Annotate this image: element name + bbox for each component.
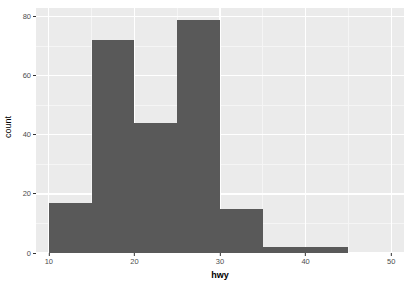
y-axis-tick-label: 60	[23, 71, 33, 80]
x-axis-tick-mark	[48, 253, 49, 256]
y-axis-tick-label: 40	[23, 130, 33, 139]
y-axis-tick-label: 80	[23, 12, 33, 21]
x-axis-tick: 30	[216, 253, 224, 266]
x-axis-tick-mark	[134, 253, 135, 256]
x-axis-tick-label: 30	[216, 257, 224, 266]
histogram-bar	[177, 20, 220, 253]
y-axis-ticks: 020406080	[14, 0, 36, 290]
histogram-bar	[134, 123, 177, 253]
histogram-bar	[220, 209, 263, 253]
y-axis-tick: 80	[23, 11, 36, 23]
y-axis-tick-label: 20	[23, 189, 33, 198]
x-axis-title: hwy	[36, 270, 404, 280]
x-axis-tick: 50	[387, 253, 395, 266]
gridline-minor-vertical	[348, 8, 349, 253]
y-axis-tick: 40	[23, 129, 36, 141]
plot-panel	[36, 8, 404, 253]
y-axis-tick: 60	[23, 70, 36, 82]
gridline-major-vertical	[305, 8, 306, 253]
x-axis-tick: 10	[45, 253, 53, 266]
x-axis-tick-label: 40	[301, 257, 309, 266]
x-axis-tick-label: 20	[130, 257, 138, 266]
histogram-bar	[92, 40, 135, 253]
x-axis-tick-mark	[220, 253, 221, 256]
histogram-chart: count 020406080 1020304050 hwy	[0, 0, 414, 290]
y-axis-tick: 20	[23, 188, 36, 200]
y-axis-title-label: count	[3, 115, 13, 137]
x-axis-tick: 20	[130, 253, 138, 266]
x-axis-tick-label: 50	[387, 257, 395, 266]
x-axis-tick-label: 10	[45, 257, 53, 266]
gridline-major-vertical	[391, 8, 392, 253]
x-axis-tick: 40	[301, 253, 309, 266]
histogram-bar	[49, 203, 92, 253]
x-axis-tick-mark	[391, 253, 392, 256]
x-axis-tick-mark	[305, 253, 306, 256]
